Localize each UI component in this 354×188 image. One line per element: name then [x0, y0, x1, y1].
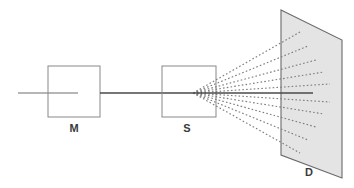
- detector-plane: [281, 10, 342, 178]
- sample-label: S: [183, 122, 190, 134]
- monochromator-box: [48, 66, 100, 117]
- diagram-canvas: M S D: [0, 0, 354, 188]
- scattering-diagram-figure: M S D: [0, 0, 354, 188]
- monochromator-label: M: [69, 122, 78, 134]
- detector-label: D: [305, 166, 313, 178]
- sample-box: [162, 66, 216, 117]
